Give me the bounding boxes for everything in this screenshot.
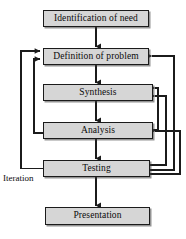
iteration-annotation-label: Iteration bbox=[3, 173, 34, 183]
stage-label-identification: Identification of need bbox=[54, 14, 138, 24]
stage-label-presentation: Presentation bbox=[73, 211, 121, 221]
connector-lines bbox=[0, 0, 186, 239]
feedback-testing-to-definition-left bbox=[21, 51, 43, 169]
feedback-testing-to-analysis-right bbox=[150, 131, 180, 174]
feedback-analysis-to-synthesis-right bbox=[153, 88, 158, 130]
stage-box-synthesis[interactable]: Synthesis bbox=[43, 84, 153, 101]
stage-label-definition: Definition of problem bbox=[53, 52, 138, 62]
stage-box-analysis[interactable]: Analysis bbox=[43, 122, 153, 139]
feedback-analysis-to-definition-left bbox=[34, 59, 43, 133]
design-process-flowchart: Identification of need Definition of pro… bbox=[0, 0, 186, 239]
stage-box-testing[interactable]: Testing bbox=[43, 160, 150, 177]
stage-label-testing: Testing bbox=[82, 164, 111, 174]
stage-box-identification[interactable]: Identification of need bbox=[43, 10, 149, 27]
stage-box-presentation[interactable]: Presentation bbox=[45, 207, 150, 225]
feedback-testing-to-definition-right bbox=[150, 56, 174, 170]
stage-label-analysis: Analysis bbox=[81, 126, 115, 136]
stage-box-definition[interactable]: Definition of problem bbox=[43, 48, 149, 65]
stage-label-synthesis: Synthesis bbox=[79, 88, 116, 98]
